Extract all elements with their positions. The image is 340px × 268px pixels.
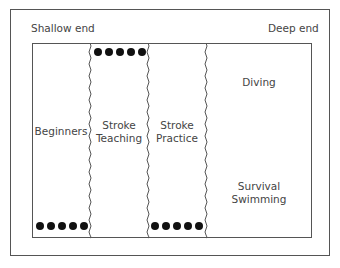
swimmers-stroke-teaching-top	[94, 48, 146, 56]
zone-stroke-practice: Stroke Practice	[148, 119, 206, 145]
zone-diving: Diving	[206, 76, 312, 89]
stroke-teaching-label-line1: Stroke	[90, 119, 148, 132]
swimmer-dot	[36, 222, 44, 230]
survival-label-line1: Survival	[206, 180, 312, 193]
beginners-label: Beginners	[35, 125, 88, 137]
swimmer-dot	[94, 48, 102, 56]
swimmers-beginners-bottom	[36, 222, 88, 230]
stroke-teaching-label-line2: Teaching	[90, 132, 148, 145]
swimmer-dot	[127, 48, 135, 56]
swimmer-dot	[162, 222, 170, 230]
swimmer-dot	[105, 48, 113, 56]
stroke-practice-label-line2: Practice	[148, 132, 206, 145]
stroke-practice-label-line1: Stroke	[148, 119, 206, 132]
swimmer-dot	[173, 222, 181, 230]
zone-survival-swimming: Survival Swimming	[206, 180, 312, 206]
swimmer-dot	[47, 222, 55, 230]
swimmer-dot	[80, 222, 88, 230]
swimmers-stroke-practice-bottom	[151, 222, 203, 230]
swimmer-dot	[151, 222, 159, 230]
zone-stroke-teaching: Stroke Teaching	[90, 119, 148, 145]
survival-label-line2: Swimming	[206, 193, 312, 206]
zone-beginners: Beginners	[32, 125, 90, 138]
swimmer-dot	[195, 222, 203, 230]
swimmer-dot	[116, 48, 124, 56]
swimmer-dot	[58, 222, 66, 230]
swimmer-dot	[138, 48, 146, 56]
diving-label: Diving	[242, 76, 275, 88]
swimmer-dot	[69, 222, 77, 230]
swimmer-dot	[184, 222, 192, 230]
